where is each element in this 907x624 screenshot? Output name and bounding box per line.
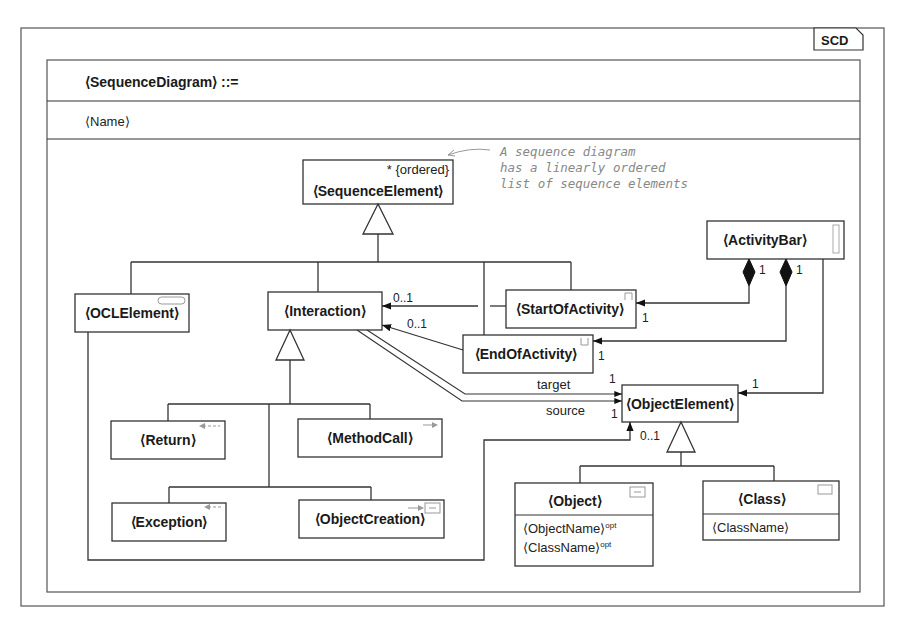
- ordered-constraint: * {ordered}: [387, 162, 450, 177]
- class-name: ⟨Class⟩: [738, 491, 785, 507]
- class-name: ⟨SequenceElement⟩: [313, 183, 444, 199]
- svg-text:0..1: 0..1: [407, 317, 427, 331]
- class-object-element[interactable]: ⟨ObjectElement⟩: [622, 385, 738, 422]
- class-name: ⟨ObjectElement⟩: [626, 396, 734, 412]
- class-name: ⟨Interaction⟩: [284, 303, 366, 319]
- svg-text:1: 1: [759, 263, 766, 277]
- class-attr-classname: ⟨ClassName⟩: [712, 520, 789, 535]
- svg-text:0..1: 0..1: [393, 291, 413, 305]
- svg-text:0..1: 0..1: [640, 429, 660, 443]
- object-attr-classname: ⟨ClassName⟩opt: [523, 540, 612, 555]
- svg-text:1: 1: [796, 263, 803, 277]
- class-ocl-element[interactable]: ⟨OCLElement⟩: [75, 294, 189, 332]
- class-name: ⟨ObjectCreation⟩: [315, 511, 425, 527]
- class-activity-bar[interactable]: ⟨ActivityBar⟩: [707, 221, 844, 259]
- class-name: ⟨OCLElement⟩: [85, 305, 179, 321]
- svg-text:1: 1: [609, 372, 616, 386]
- assoc-start-interaction: 0..1: [382, 291, 506, 306]
- generalization-triangle: [667, 422, 695, 452]
- class-object-creation[interactable]: ⟨ObjectCreation⟩: [299, 500, 444, 538]
- activity-bar-icon: [833, 225, 839, 253]
- note-line-2: has a linearly ordered: [500, 160, 666, 175]
- svg-text:1: 1: [752, 377, 759, 391]
- class-name: ⟨MethodCall⟩: [327, 430, 412, 446]
- class-start-of-activity[interactable]: ⟨StartOfActivity⟩: [506, 290, 636, 328]
- class-name: ⟨ActivityBar⟩: [723, 232, 807, 248]
- note-line-3: list of sequence elements: [500, 176, 688, 191]
- role-target: target: [537, 377, 571, 392]
- ocl-icon: [158, 297, 185, 304]
- generalization-triangle: [276, 330, 304, 360]
- sequence-diagram-canvas: SCD ⟨SequenceDiagram⟩ ::= ⟨Name⟩ A seque…: [0, 0, 907, 624]
- class-exception[interactable]: ⟨Exception⟩: [112, 503, 226, 541]
- class-name: ⟨StartOfActivity⟩: [516, 301, 624, 317]
- ordered-note: A sequence diagram has a linearly ordere…: [448, 144, 688, 191]
- class-interaction[interactable]: ⟨Interaction⟩: [268, 292, 382, 330]
- svg-text:1: 1: [598, 349, 605, 363]
- class-return[interactable]: ⟨Return⟩: [111, 421, 225, 459]
- object-attr-objectname: ⟨ObjectName⟩opt: [523, 521, 617, 536]
- assoc-end-interaction: 0..1: [382, 317, 463, 350]
- production-header: ⟨SequenceDiagram⟩ ::=: [85, 74, 239, 90]
- class-sequence-element[interactable]: * {ordered} ⟨SequenceElement⟩: [303, 160, 453, 204]
- class-name: ⟨EndOfActivity⟩: [475, 346, 578, 362]
- scd-tag: SCD: [814, 28, 863, 50]
- composition-activitybar-start: 1 1: [636, 259, 766, 325]
- class-name: ⟨Exception⟩: [131, 514, 208, 530]
- generalization-triangle: [363, 204, 393, 234]
- name-attribute: ⟨Name⟩: [85, 114, 130, 129]
- class-name: ⟨Return⟩: [140, 432, 195, 448]
- svg-text:1: 1: [611, 407, 618, 421]
- class-class[interactable]: ⟨Class⟩ ⟨ClassName⟩: [703, 481, 839, 540]
- scd-tag-label: SCD: [821, 33, 848, 48]
- role-source: source: [546, 403, 585, 418]
- class-icon: [818, 485, 832, 494]
- class-object[interactable]: ⟨Object⟩ ⟨ObjectName⟩opt ⟨ClassName⟩opt: [515, 483, 653, 566]
- class-method-call[interactable]: ⟨MethodCall⟩: [298, 419, 442, 457]
- note-line-1: A sequence diagram: [499, 144, 636, 159]
- class-end-of-activity[interactable]: ⟨EndOfActivity⟩: [463, 335, 593, 373]
- class-name: ⟨Object⟩: [548, 493, 602, 509]
- svg-text:1: 1: [642, 311, 649, 325]
